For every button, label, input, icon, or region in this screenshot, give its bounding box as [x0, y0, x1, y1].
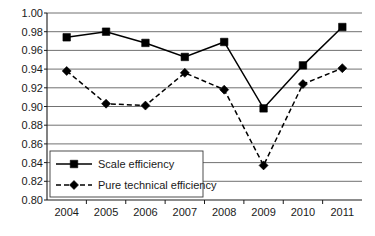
data-point-marker: [339, 23, 347, 31]
y-axis-tick-label: 0.82: [22, 175, 43, 187]
legend-item-label: Pure technical efficiency: [98, 179, 217, 191]
y-axis-tick-label: 0.88: [22, 119, 43, 131]
x-axis-tick-marks: [86, 200, 322, 204]
x-axis-tick-label: 2004: [54, 206, 78, 218]
y-axis-tick-label: 0.80: [22, 194, 43, 206]
x-axis-tick-labels: 20042005200620072008200920102011: [54, 206, 354, 218]
y-axis-tick-label: 0.94: [22, 63, 43, 75]
y-axis-tick-label: 0.96: [22, 44, 43, 56]
data-point-marker: [102, 28, 110, 36]
x-axis-tick-label: 2010: [291, 206, 315, 218]
data-point-marker: [220, 38, 228, 46]
legend-marker-swatch: [70, 160, 78, 168]
x-axis-tick-label: 2008: [212, 206, 236, 218]
x-axis-tick-label: 2009: [251, 206, 275, 218]
y-axis-tick-label: 0.90: [22, 101, 43, 113]
data-point-marker: [260, 105, 268, 113]
x-axis-tick-label: 2006: [133, 206, 157, 218]
y-axis-tick-label: 0.84: [22, 157, 43, 169]
chart-container: 1.000.980.960.940.920.900.880.860.840.82…: [0, 0, 375, 236]
y-axis-tick-labels: 1.000.980.960.940.920.900.880.860.840.82…: [22, 7, 47, 206]
y-axis-tick-label: 1.00: [22, 7, 43, 19]
legend-item-label: Scale efficiency: [98, 158, 175, 170]
chart-legend: Scale efficiencyPure technical efficienc…: [50, 151, 217, 197]
data-point-marker: [181, 53, 189, 61]
data-point-marker: [142, 39, 150, 47]
y-axis-tick-label: 0.92: [22, 82, 43, 94]
x-axis-tick-label: 2005: [94, 206, 118, 218]
data-point-marker: [299, 62, 307, 70]
x-axis-tick-label: 2007: [173, 206, 197, 218]
x-axis-tick-label: 2011: [330, 206, 354, 218]
y-axis-tick-label: 0.86: [22, 138, 43, 150]
data-point-marker: [63, 34, 71, 42]
y-axis-tick-label: 0.98: [22, 26, 43, 38]
efficiency-line-chart: 1.000.980.960.940.920.900.880.860.840.82…: [0, 0, 375, 236]
